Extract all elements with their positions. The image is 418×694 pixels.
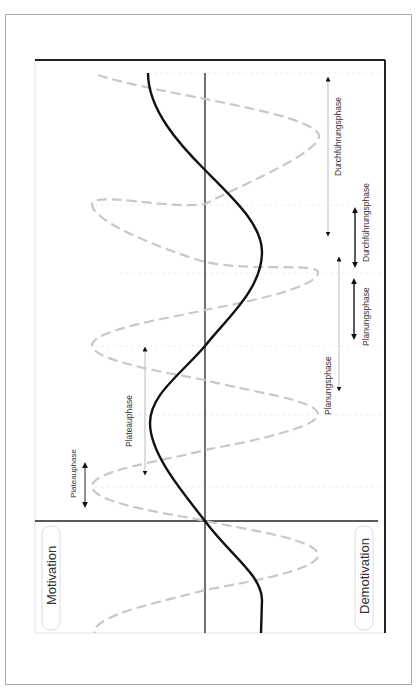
label-planung-short: Planungsphase	[361, 287, 371, 346]
label-planung-long: Planungsphase	[323, 356, 333, 415]
motivation-label: Motivation	[44, 546, 59, 605]
label-plateau-short: Plateauphase	[69, 449, 78, 498]
label-plateau-long: Plateauphase	[124, 395, 134, 447]
label-durchfuehrung-short: Durchführungsphase	[361, 183, 371, 262]
demotivation-label: Demotivation	[357, 538, 372, 614]
label-durchfuehrung-long: Durchführungsphase	[333, 97, 343, 176]
motivation-diagram: Durchführungsphase Durchführungsphase Pl…	[0, 0, 418, 694]
